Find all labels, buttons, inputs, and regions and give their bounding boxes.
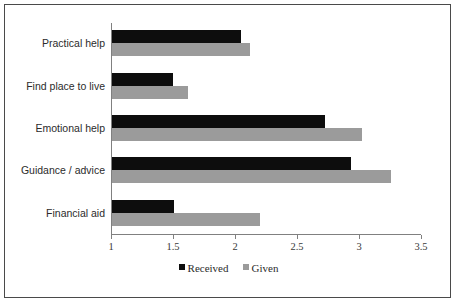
legend-label: Received: [188, 262, 229, 274]
bar-given: [112, 213, 260, 226]
legend-item-received[interactable]: Received: [179, 261, 229, 274]
legend-label: Given: [252, 262, 279, 274]
category-label: Find place to live: [4, 80, 105, 92]
bar-received: [112, 115, 325, 128]
tick-mark: [297, 235, 298, 239]
bar-given: [112, 128, 362, 141]
tick-label: 3.5: [401, 241, 441, 252]
bar-received: [112, 157, 351, 170]
chart-frame: Practical helpFind place to liveEmotiona…: [4, 4, 451, 298]
tick-label: 1: [91, 241, 131, 252]
bar-given: [112, 43, 250, 56]
tick-mark: [173, 235, 174, 239]
category-label: Emotional help: [4, 122, 105, 134]
bar-received: [112, 73, 173, 86]
tick-label: 1.5: [153, 241, 193, 252]
category-axis-labels: Practical helpFind place to liveEmotiona…: [5, 23, 105, 235]
plot-area: 11.522.533.5: [111, 23, 424, 235]
tick-label: 2: [215, 241, 255, 252]
category-label: Financial aid: [4, 207, 105, 219]
tick-mark: [235, 235, 236, 239]
legend-item-given[interactable]: Given: [243, 261, 279, 274]
tick-mark: [421, 235, 422, 239]
category-label: Practical help: [4, 37, 105, 49]
tick-mark: [359, 235, 360, 239]
bar-received: [112, 30, 241, 43]
tick-label: 3: [339, 241, 379, 252]
legend-swatch-icon: [243, 264, 249, 270]
tick-label: 2.5: [277, 241, 317, 252]
category-label: Guidance / advice: [4, 164, 105, 176]
chart-legend: ReceivedGiven: [5, 261, 451, 274]
legend-swatch-icon: [179, 264, 185, 270]
bar-received: [112, 200, 174, 213]
bar-given: [112, 170, 391, 183]
tick-mark: [111, 235, 112, 239]
bar-given: [112, 86, 188, 99]
category-axis-line: [111, 234, 421, 235]
